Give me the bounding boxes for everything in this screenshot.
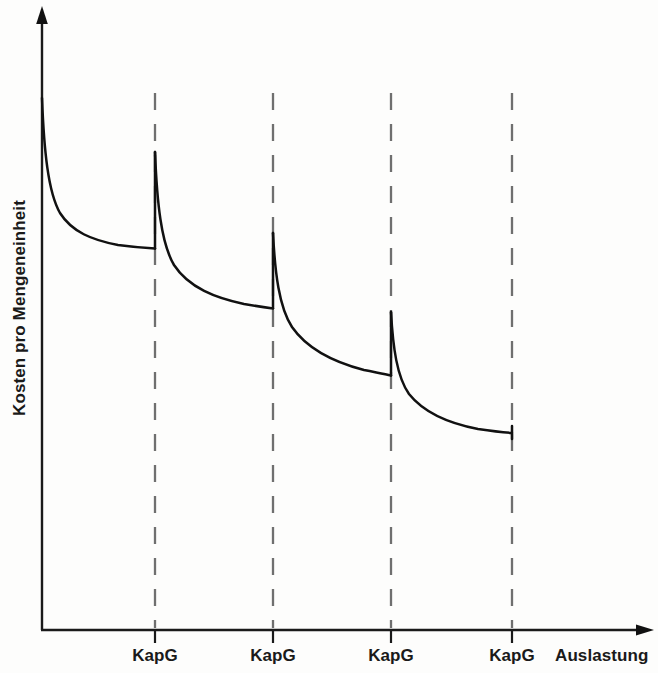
x-tick-label-3: KapG [368,646,413,666]
x-tick-label-2: KapG [250,646,295,666]
unit-cost-curve [42,98,512,439]
cost-segment-4 [391,312,512,433]
chart-plot-area [0,0,658,673]
chart-figure: Kosten pro Mengeneinheit Auslastung KapG… [0,0,658,673]
cost-segment-1 [42,98,155,249]
cost-segment-2 [155,152,273,309]
y-axis-label: Kosten pro Mengeneinheit [10,200,30,416]
x-axis [41,624,654,635]
x-tick-label-1: KapG [132,646,177,666]
x-axis-ticks [155,630,512,643]
x-axis-label: Auslastung [555,646,649,666]
x-tick-label-4: KapG [489,646,534,666]
cost-segment-3 [273,233,391,376]
